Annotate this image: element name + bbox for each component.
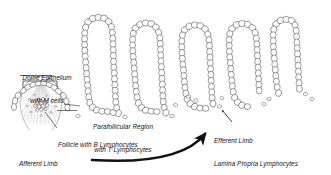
- label-dome-epithelium-line2: with M cells: [16, 97, 78, 105]
- villus-3: [178, 22, 216, 112]
- intestinal-villi: [81, 14, 302, 117]
- label-efferent-line1: Efferent Limb: [214, 137, 330, 145]
- villus-1: [81, 14, 122, 117]
- label-dome-epithelium: Dome Epithelium with M cells: [16, 59, 78, 120]
- villus-5: [270, 16, 303, 97]
- label-afferent-limb: Afferent Limb Peyer's Patch: [19, 145, 89, 175]
- efferent-leader: [222, 110, 232, 122]
- villus-4: [226, 20, 262, 109]
- diagram-canvas: Dome Epithelium with M cells Parafollicu…: [0, 0, 331, 175]
- label-efferent-limb: Efferent Limb Lamina Propria Lymphocytes…: [214, 122, 330, 175]
- label-efferent-line2: Lamina Propria Lymphocytes: [214, 160, 330, 168]
- label-dome-epithelium-line1: Dome Epithelium: [16, 74, 78, 82]
- label-afferent-line1: Afferent Limb: [19, 160, 89, 168]
- villus-2: [129, 20, 170, 117]
